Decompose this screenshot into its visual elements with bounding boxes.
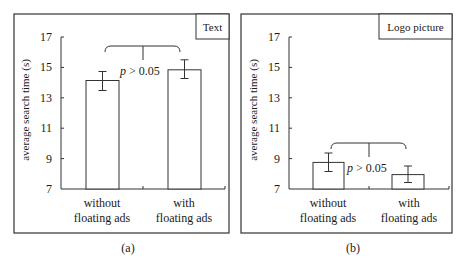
svg-text:9: 9 xyxy=(46,152,52,166)
panel-a-y-ticks: 17 15 13 11 9 7 xyxy=(40,30,52,196)
panel-b-y-label: average search time (s) xyxy=(247,59,260,161)
panel-b-x-labels: without floating ads with floating ads xyxy=(300,196,438,225)
panel-a-significance-bracket xyxy=(105,46,180,60)
svg-text:15: 15 xyxy=(40,60,52,74)
svg-text:with: with xyxy=(398,196,419,210)
svg-text:with: with xyxy=(173,196,194,210)
svg-text:13: 13 xyxy=(40,91,52,105)
panel-a-bar-with xyxy=(168,70,201,189)
panel-b-significance-bracket xyxy=(331,143,406,157)
svg-text:floating ads: floating ads xyxy=(156,211,213,225)
svg-text:7: 7 xyxy=(274,182,280,196)
svg-text:floating ads: floating ads xyxy=(381,211,438,225)
svg-text:floating ads: floating ads xyxy=(300,211,357,225)
svg-text:11: 11 xyxy=(40,121,52,135)
panel-b-y-ticks: 17 15 13 11 9 7 xyxy=(268,30,280,196)
panel-a-p-value: p > 0.05 xyxy=(119,64,160,78)
svg-text:without: without xyxy=(84,196,121,210)
panel-b-title: Logo picture xyxy=(387,21,444,33)
panel-a-caption: (a) xyxy=(121,241,134,255)
svg-text:without: without xyxy=(310,196,347,210)
panel-a-y-label: average search time (s) xyxy=(19,59,32,161)
panel-b: Logo picture 17 15 13 11 9 7 average sea… xyxy=(241,14,452,255)
svg-text:17: 17 xyxy=(268,30,280,44)
panel-a: Text 17 15 13 11 9 7 average search time… xyxy=(14,14,229,255)
panel-a-x-labels: without floating ads with floating ads xyxy=(74,196,213,225)
panel-b-caption: (b) xyxy=(346,241,360,255)
panel-b-p-value: p > 0.05 xyxy=(346,161,387,175)
svg-text:7: 7 xyxy=(46,182,52,196)
svg-text:15: 15 xyxy=(268,60,280,74)
svg-text:11: 11 xyxy=(268,121,280,135)
figure: Text 17 15 13 11 9 7 average search time… xyxy=(0,0,464,271)
svg-text:17: 17 xyxy=(40,30,52,44)
svg-text:floating ads: floating ads xyxy=(74,211,131,225)
svg-text:9: 9 xyxy=(274,152,280,166)
svg-text:13: 13 xyxy=(268,91,280,105)
panel-a-bar-without xyxy=(86,81,119,190)
panel-a-title: Text xyxy=(203,21,222,33)
